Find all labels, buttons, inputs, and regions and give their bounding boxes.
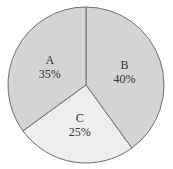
slice-percent-c: 25% <box>69 125 91 139</box>
pie-chart: B40%C25%A35% <box>0 0 173 169</box>
slice-label-c: C <box>76 111 84 125</box>
slice-label-b: B <box>121 58 129 72</box>
slice-percent-b: 40% <box>114 72 136 86</box>
slice-label-a: A <box>46 53 55 67</box>
pie-slices <box>8 7 164 163</box>
slice-percent-a: 35% <box>39 67 61 81</box>
